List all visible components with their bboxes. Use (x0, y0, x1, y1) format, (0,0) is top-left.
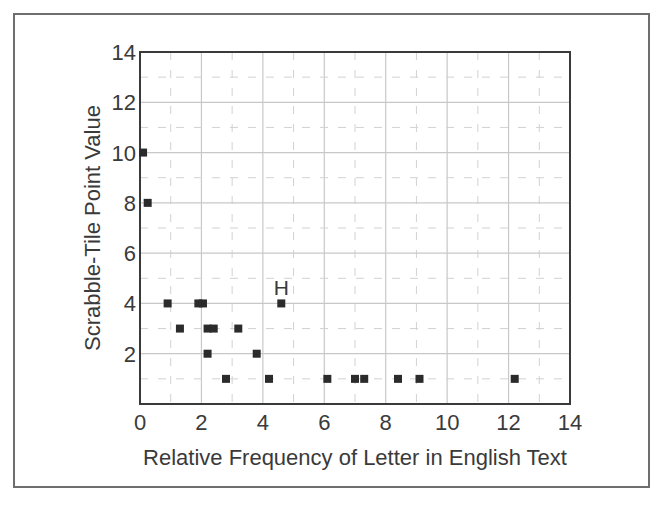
data-point (351, 375, 359, 383)
data-point (360, 375, 368, 383)
y-tick-label: 4 (124, 291, 136, 316)
data-point (204, 350, 212, 358)
data-point (139, 149, 147, 157)
x-tick-label: 0 (134, 410, 146, 435)
data-point (277, 299, 285, 307)
y-tick-label: 14 (112, 40, 136, 65)
data-point (323, 375, 331, 383)
x-axis-ticks: 02468101214 (134, 410, 582, 435)
y-tick-label: 6 (124, 241, 136, 266)
y-tick-label: 2 (124, 342, 136, 367)
y-tick-label: 10 (112, 141, 136, 166)
point-annotation-h: H (274, 276, 289, 299)
data-point (199, 299, 207, 307)
data-point (222, 375, 230, 383)
scatter-chart: 02468101214 2468101214 H Relative Freque… (0, 0, 666, 505)
data-point (394, 375, 402, 383)
x-tick-label: 12 (496, 410, 520, 435)
y-tick-label: 12 (112, 90, 136, 115)
x-tick-label: 4 (257, 410, 269, 435)
data-point (176, 325, 184, 333)
data-point (164, 299, 172, 307)
data-point (511, 375, 519, 383)
x-tick-label: 14 (558, 410, 582, 435)
data-point (210, 325, 218, 333)
data-point (416, 375, 424, 383)
data-point (234, 325, 242, 333)
data-points (139, 149, 519, 383)
y-tick-label: 8 (124, 191, 136, 216)
x-tick-label: 10 (435, 410, 459, 435)
x-tick-label: 6 (318, 410, 330, 435)
x-tick-label: 8 (380, 410, 392, 435)
x-tick-label: 2 (195, 410, 207, 435)
data-point (253, 350, 261, 358)
data-point (144, 199, 152, 207)
data-point (265, 375, 273, 383)
y-axis-ticks: 2468101214 (112, 40, 136, 367)
y-axis-title: Scrabble-Tile Point Value (80, 105, 105, 351)
x-axis-title: Relative Frequency of Letter in English … (143, 445, 567, 470)
